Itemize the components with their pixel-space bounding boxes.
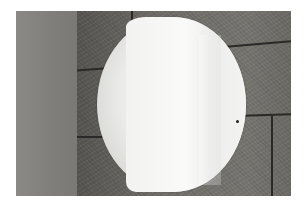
disc-speck: [236, 120, 239, 123]
photograph: [16, 11, 291, 196]
disc-light-band: [199, 35, 221, 185]
stone-joint: [271, 116, 273, 196]
gray-panel: [16, 11, 77, 196]
